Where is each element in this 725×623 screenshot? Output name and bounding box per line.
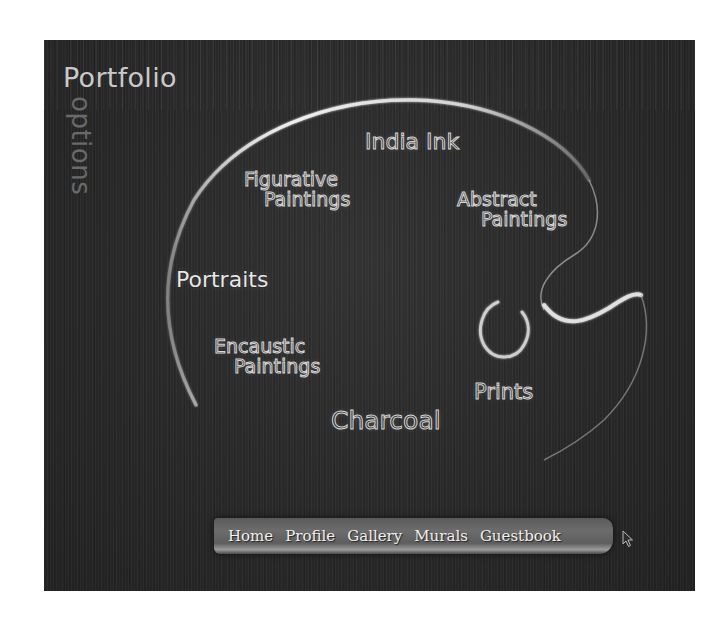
category-label-line1: Abstract (457, 190, 567, 210)
category-label-line2: Paintings (457, 210, 567, 230)
nav-guestbook[interactable]: Guestbook (480, 527, 561, 545)
category-abstract-paintings[interactable]: Abstract Paintings (457, 190, 567, 230)
category-encaustic-paintings[interactable]: Encaustic Paintings (214, 337, 320, 377)
nav-profile[interactable]: Profile (285, 527, 335, 545)
category-prints[interactable]: Prints (474, 381, 533, 403)
category-label-line1: Figurative (244, 170, 350, 190)
category-portraits[interactable]: Portraits (176, 268, 268, 291)
category-label: India Ink (365, 129, 459, 154)
mouse-cursor-icon (622, 530, 636, 548)
palette-outline-icon (44, 40, 695, 591)
nav-home[interactable]: Home (228, 527, 273, 545)
category-label: Prints (474, 380, 533, 404)
category-label-line2: Paintings (214, 357, 320, 377)
portfolio-panel: Portfolio options India Ink Fi (44, 40, 695, 591)
category-india-ink[interactable]: India Ink (365, 130, 459, 153)
category-label: Portraits (176, 267, 268, 292)
category-label-line2: Paintings (244, 190, 350, 210)
nav-murals[interactable]: Murals (414, 527, 468, 545)
category-label-line1: Encaustic (214, 337, 320, 357)
category-label: Charcoal (331, 406, 441, 435)
category-figurative-paintings[interactable]: Figurative Paintings (244, 170, 350, 210)
nav-gallery[interactable]: Gallery (347, 527, 402, 545)
main-navigation: Home Profile Gallery Murals Guestbook (214, 518, 613, 554)
category-charcoal[interactable]: Charcoal (331, 408, 441, 434)
